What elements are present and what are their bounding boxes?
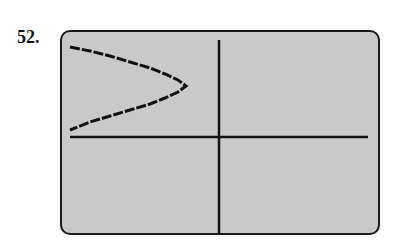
graph <box>0 0 395 250</box>
parabola-curve <box>70 47 186 130</box>
